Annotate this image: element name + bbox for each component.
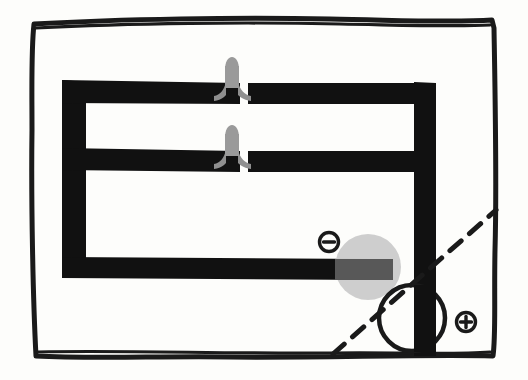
right-trace-comb bbox=[248, 82, 436, 356]
positive-terminal-marker bbox=[457, 313, 476, 332]
circuit-diagram-svg bbox=[0, 0, 528, 380]
circuit-diagram-canvas: Hand-drawn paper circuit diagram Two LED… bbox=[0, 0, 528, 380]
coin-cell-battery[interactable] bbox=[379, 285, 445, 352]
negative-terminal-marker bbox=[320, 233, 339, 252]
